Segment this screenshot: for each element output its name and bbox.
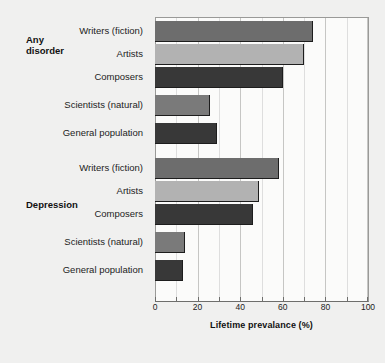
bar (155, 158, 279, 179)
bar (155, 232, 185, 253)
bar-row (155, 95, 368, 116)
x-tick-mark (155, 297, 156, 301)
plot-area (155, 17, 369, 302)
bar-row (155, 67, 368, 88)
x-tick-mark (240, 297, 241, 301)
x-axis-ticks: 020406080100 (155, 301, 368, 315)
y-axis-label: General population (63, 259, 143, 280)
y-axis-labels: Writers (fiction)ArtistsComposersScienti… (0, 17, 150, 300)
x-tick-mark (367, 297, 368, 301)
x-tick-label: 20 (193, 302, 202, 312)
x-tick-mark-minor (262, 297, 263, 301)
x-tick-mark (198, 297, 199, 301)
x-tick-label: 0 (153, 302, 158, 312)
bar-row (155, 181, 368, 202)
bar-row (155, 260, 368, 281)
x-tick-mark-minor (347, 297, 348, 301)
y-axis-label: Scientists (natural) (64, 94, 143, 115)
chart-figure: Any disorder Depression Writers (fiction… (0, 0, 385, 363)
x-tick-mark (283, 297, 284, 301)
bar-row (155, 204, 368, 225)
bars-layer (155, 18, 368, 301)
bar-row (155, 21, 368, 42)
y-axis-label: Scientists (natural) (64, 231, 143, 252)
x-axis-title: Lifetime prevalance (%) (155, 320, 368, 330)
x-tick-label: 100 (361, 302, 375, 312)
y-axis-label: General population (63, 122, 143, 143)
x-tick-label: 60 (278, 302, 287, 312)
y-axis-label: Artists (117, 43, 143, 64)
x-tick-mark (325, 297, 326, 301)
x-tick-label: 80 (321, 302, 330, 312)
bar-row (155, 123, 368, 144)
bar-row (155, 158, 368, 179)
x-tick-mark-minor (219, 297, 220, 301)
y-axis-label: Composers (94, 203, 143, 224)
y-axis-label: Writers (fiction) (79, 20, 143, 41)
bar (155, 181, 259, 202)
bar (155, 204, 253, 225)
bar (155, 260, 183, 281)
x-tick-mark-minor (304, 297, 305, 301)
bar (155, 123, 217, 144)
bar (155, 95, 210, 116)
bar-row (155, 44, 368, 65)
bar (155, 21, 313, 42)
y-axis-label: Artists (117, 180, 143, 201)
y-axis-label: Writers (fiction) (79, 157, 143, 178)
x-tick-mark-minor (176, 297, 177, 301)
x-tick-label: 40 (235, 302, 244, 312)
bar (155, 44, 304, 65)
bar-row (155, 232, 368, 253)
bar (155, 67, 283, 88)
y-axis-label: Composers (94, 66, 143, 87)
